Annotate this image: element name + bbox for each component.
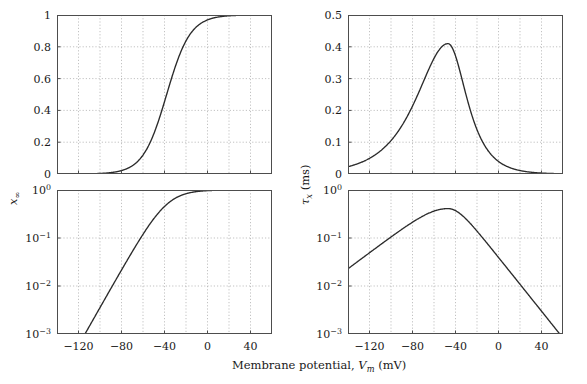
grid-vertical: [79, 190, 251, 334]
grid-vertical: [370, 15, 542, 174]
bottom-right-plot: [348, 190, 563, 334]
bottom-right-ytick-label: 10−3: [296, 328, 342, 341]
top-right-plot: [348, 15, 563, 174]
panel-top-left: [57, 15, 272, 174]
tick-marks: [348, 15, 542, 174]
top-right-ytick-label: 0.5: [296, 10, 342, 21]
grid-vertical: [79, 15, 251, 174]
bottom-right-xtick-label: 0: [495, 341, 502, 352]
top-left-ytick-label: 0.8: [5, 41, 51, 52]
bottom-left-xtick-label: 0: [204, 341, 211, 352]
bottom-left-ytick-label: 100: [5, 184, 51, 197]
bottom-left-xtick-label: −120: [63, 341, 93, 352]
top-right-ytick-label: 0: [296, 169, 342, 180]
bottom-left-xtick-label: −40: [153, 341, 176, 352]
bottom-left-plot: [57, 190, 272, 334]
figure-root: Membrane potential, Vm (mV) x∞ τx (ms) 0…: [0, 0, 587, 384]
top-right-ytick-label: 0.2: [296, 105, 342, 116]
bottom-right-ytick-label: 10−2: [296, 280, 342, 293]
bottom-left-xtick-label: 40: [244, 341, 258, 352]
panel-bottom-right: [348, 190, 563, 334]
bottom-left-ytick-label: 10−2: [5, 280, 51, 293]
top-left-ytick-label: 0: [5, 169, 51, 180]
bottom-right-xtick-label: 40: [535, 341, 549, 352]
top-right-ytick-label: 0.1: [296, 137, 342, 148]
top-left-ytick-label: 0.4: [5, 105, 51, 116]
bottom-left-xtick-label: −80: [110, 341, 133, 352]
top-left-ytick-label: 0.2: [5, 137, 51, 148]
bottom-right-ytick-label: 10−1: [296, 232, 342, 245]
top-left-ytick-label: 0.6: [5, 73, 51, 84]
bottom-left-ytick-label: 10−1: [5, 232, 51, 245]
top-left-plot: [57, 15, 272, 174]
top-right-ytick-label: 0.4: [296, 41, 342, 52]
bottom-right-ytick-label: 100: [296, 184, 342, 197]
tick-marks: [57, 15, 251, 174]
top-right-ytick-label: 0.3: [296, 73, 342, 84]
bottom-left-ytick-label: 10−3: [5, 328, 51, 341]
x-axis-title: Membrane potential, Vm (mV): [232, 360, 406, 374]
top-left-ytick-label: 1: [5, 10, 51, 21]
bottom-right-xtick-label: −120: [354, 341, 384, 352]
bottom-right-xtick-label: −40: [444, 341, 467, 352]
bottom-right-xtick-label: −80: [401, 341, 424, 352]
tick-marks: [348, 190, 542, 334]
grid-vertical: [370, 190, 542, 334]
tick-marks: [57, 190, 251, 334]
panel-bottom-left: [57, 190, 272, 334]
panel-top-right: [348, 15, 563, 174]
